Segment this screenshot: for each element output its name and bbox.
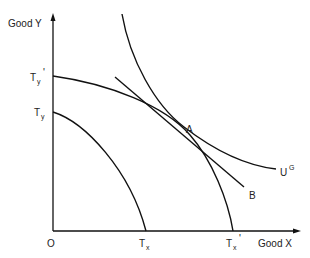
tx-prime-subscript: x — [233, 244, 237, 251]
tx-label: T — [139, 238, 145, 249]
ty-label: T — [34, 107, 40, 118]
x-axis-label: Good X — [258, 238, 292, 249]
price-line — [115, 77, 244, 187]
y-axis-arrow-icon — [51, 13, 56, 21]
point-a-label: A — [186, 124, 193, 135]
transformation-curve-inner — [53, 112, 146, 231]
ty-prime-mark: ' — [43, 67, 45, 78]
ty-prime-subscript: y — [37, 78, 41, 86]
diagram-canvas: Good Y Good X O T y ' T y T x T x ' A B … — [0, 0, 310, 258]
point-b-label: B — [249, 190, 256, 201]
ty-subscript: y — [41, 113, 45, 121]
indifference-curve-label: U — [280, 167, 287, 178]
y-axis-label: Good Y — [8, 18, 42, 29]
tx-prime-mark: ' — [239, 233, 241, 244]
x-axis-arrow-icon — [293, 229, 301, 234]
ty-prime-label: T — [30, 72, 36, 83]
tx-prime-label: T — [226, 238, 232, 249]
indifference-curve-superscript: G — [289, 164, 294, 171]
tx-subscript: x — [146, 244, 150, 251]
transformation-curve-outer — [53, 76, 233, 231]
origin-label: O — [47, 238, 55, 249]
